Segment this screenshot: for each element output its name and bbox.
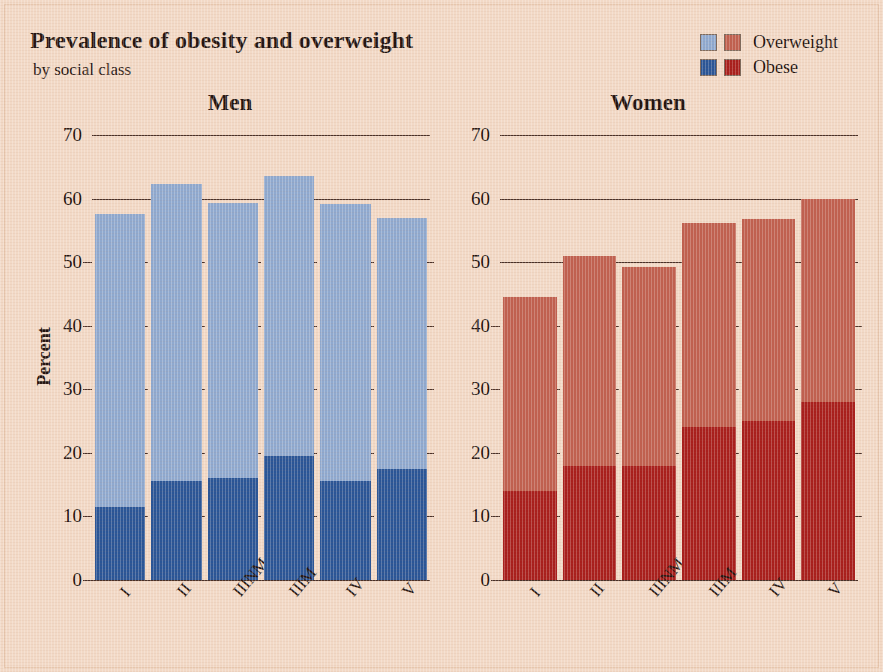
bar-women-V bbox=[801, 199, 855, 580]
chart-title-women: Women bbox=[438, 90, 858, 116]
y-axis-tick-label-men-0: 0 bbox=[48, 569, 82, 591]
y-axis-tick-women-10 bbox=[491, 516, 500, 517]
bar-women-I bbox=[503, 297, 557, 580]
bar-segment-overweight-men-IIIM bbox=[264, 176, 314, 456]
bar-women-IV bbox=[742, 219, 796, 580]
chart-title-men: Men bbox=[30, 90, 430, 116]
bar-segment-overweight-women-IIIM bbox=[682, 223, 736, 428]
y-axis-tick-women-40 bbox=[491, 326, 500, 327]
bar-segment-obese-men-I bbox=[95, 507, 145, 580]
bar-segment-obese-men-IV bbox=[320, 481, 370, 580]
bar-segment-overweight-women-I bbox=[503, 297, 557, 491]
y-axis-tick-women-20 bbox=[491, 453, 500, 454]
y-axis-tick-men-40 bbox=[83, 326, 92, 327]
legend-label-overweight: Overweight bbox=[753, 32, 838, 53]
bar-men-V bbox=[377, 218, 427, 580]
legend-swatch-obese-men bbox=[700, 59, 717, 76]
legend-label-obese: Obese bbox=[753, 57, 798, 78]
legend-item-overweight: Overweight bbox=[700, 30, 838, 55]
bar-segment-overweight-men-IIINM bbox=[208, 203, 258, 478]
bar-segment-overweight-women-V bbox=[801, 199, 855, 402]
y-axis-tick-label-men-10: 10 bbox=[48, 505, 82, 527]
bar-segment-obese-men-II bbox=[151, 481, 201, 580]
y-axis-tick-label-women-0: 0 bbox=[456, 569, 490, 591]
y-axis-tick-label-women-40: 40 bbox=[456, 315, 490, 337]
legend: Overweight Obese bbox=[700, 30, 838, 80]
bar-segment-obese-women-IIIM bbox=[682, 427, 736, 580]
gridline-men-70 bbox=[92, 135, 430, 136]
y-axis-tick-men-50 bbox=[83, 262, 92, 263]
page-subtitle: by social class bbox=[33, 60, 131, 80]
gridline-women-70 bbox=[500, 135, 858, 136]
bar-segment-overweight-men-II bbox=[151, 184, 201, 482]
y-axis-title-men: Percent bbox=[34, 306, 55, 406]
legend-swatch-overweight-women bbox=[724, 34, 741, 51]
gridline-men-60 bbox=[92, 199, 430, 200]
bar-women-II bbox=[563, 256, 617, 580]
bar-segment-overweight-men-V bbox=[377, 218, 427, 469]
y-axis-tick-women-30 bbox=[491, 389, 500, 390]
y-axis-tick-men-30 bbox=[83, 389, 92, 390]
y-axis-tick-label-women-30: 30 bbox=[456, 378, 490, 400]
y-axis-tick-label-men-50: 50 bbox=[48, 251, 82, 273]
y-axis-tick-men-20 bbox=[83, 453, 92, 454]
bar-men-I bbox=[95, 214, 145, 580]
bar-segment-obese-women-IV bbox=[742, 421, 796, 580]
bar-women-IIINM bbox=[622, 267, 676, 580]
y-axis-tick-label-women-70: 70 bbox=[456, 124, 490, 146]
bar-men-IV bbox=[320, 204, 370, 580]
bar-segment-obese-women-V bbox=[801, 402, 855, 580]
bar-segment-overweight-men-I bbox=[95, 214, 145, 506]
bar-women-IIIM bbox=[682, 223, 736, 580]
bar-segment-overweight-women-II bbox=[563, 256, 617, 466]
y-axis-tick-label-women-20: 20 bbox=[456, 442, 490, 464]
bar-segment-obese-women-II bbox=[563, 466, 617, 580]
chart-page: Prevalence of obesity and overweight by … bbox=[0, 0, 883, 672]
page-title: Prevalence of obesity and overweight bbox=[30, 27, 413, 54]
y-axis-tick-label-women-10: 10 bbox=[456, 505, 490, 527]
bar-men-IIIM bbox=[264, 176, 314, 580]
bar-segment-obese-men-IIIM bbox=[264, 456, 314, 580]
bar-segment-overweight-women-IV bbox=[742, 219, 796, 421]
bar-men-IIINM bbox=[208, 203, 258, 580]
bar-segment-obese-men-V bbox=[377, 469, 427, 580]
y-axis-tick-label-men-70: 70 bbox=[48, 124, 82, 146]
legend-swatch-overweight-men bbox=[700, 34, 717, 51]
bar-segment-overweight-women-IIINM bbox=[622, 267, 676, 465]
y-axis-tick-label-women-50: 50 bbox=[456, 251, 490, 273]
bar-segment-obese-women-I bbox=[503, 491, 557, 580]
bar-segment-overweight-men-IV bbox=[320, 204, 370, 482]
legend-item-obese: Obese bbox=[700, 55, 838, 80]
y-axis-tick-label-women-60: 60 bbox=[456, 188, 490, 210]
bar-men-II bbox=[151, 184, 201, 580]
y-axis-tick-label-men-60: 60 bbox=[48, 188, 82, 210]
y-axis-tick-label-men-20: 20 bbox=[48, 442, 82, 464]
y-axis-tick-men-10 bbox=[83, 516, 92, 517]
legend-swatch-obese-women bbox=[724, 59, 741, 76]
